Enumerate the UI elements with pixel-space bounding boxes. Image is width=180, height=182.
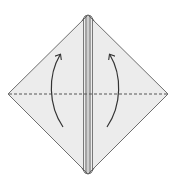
diagram-canvas	[0, 0, 180, 182]
center-flap-layers	[82, 15, 94, 174]
origami-diagram: Diamond-shaped folded paper with center …	[0, 0, 180, 182]
